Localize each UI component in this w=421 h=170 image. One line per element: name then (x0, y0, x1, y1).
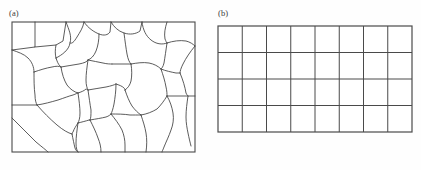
panel-a: (a) (0, 0, 205, 170)
panel-b: (b) (205, 0, 421, 170)
panel-b-graphic (205, 0, 421, 170)
figure-container: (a) (0, 0, 421, 170)
panel-a-graphic (0, 0, 205, 170)
